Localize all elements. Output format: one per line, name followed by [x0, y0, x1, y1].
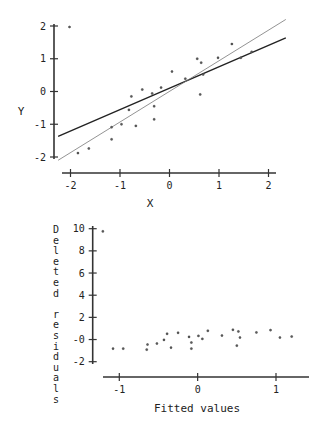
svg-text:e: e — [53, 277, 59, 288]
svg-text:a: a — [53, 372, 59, 383]
svg-text:l: l — [53, 383, 59, 394]
data-point — [278, 336, 281, 339]
y-tick-label: 1 — [40, 53, 46, 64]
data-point — [130, 95, 133, 98]
x-tick-label: 0 — [195, 384, 201, 395]
data-point — [145, 348, 148, 351]
svg-text:i: i — [53, 341, 59, 352]
svg-text:D: D — [53, 224, 59, 235]
data-point — [235, 344, 238, 347]
chart-canvas: -2-1012-2-1012 XY 108642-0-2-101 Fitted … — [0, 0, 327, 428]
fit-without-outlier-line — [58, 19, 286, 160]
y-tick-label: 6 — [79, 268, 85, 279]
x-tick-label: 1 — [216, 180, 222, 191]
data-point — [237, 330, 240, 333]
svg-text:s: s — [53, 394, 59, 405]
y-tick-label: -2 — [34, 152, 46, 163]
x-axis-label: Fitted values — [154, 402, 240, 415]
svg-text:e: e — [53, 256, 59, 267]
data-point — [134, 124, 137, 127]
regression-lines — [58, 19, 286, 160]
x-tick-label: -1 — [114, 180, 126, 191]
data-point — [201, 337, 204, 340]
data-point — [230, 43, 233, 46]
data-point — [155, 342, 158, 345]
y-axis-label: Y — [18, 105, 25, 118]
data-point — [231, 328, 234, 331]
x-tick-label: -1 — [113, 384, 125, 395]
svg-text:u: u — [53, 362, 59, 373]
data-point — [153, 105, 156, 108]
y-tick-label: -0 — [73, 334, 85, 345]
data-point — [255, 331, 258, 334]
data-point — [217, 56, 220, 59]
svg-text:d: d — [53, 288, 59, 299]
axes: 108642-0-2-101 — [73, 223, 309, 395]
data-point — [200, 61, 203, 64]
y-tick-label: 0 — [40, 86, 46, 97]
data-point — [110, 138, 113, 141]
data-point — [101, 230, 104, 233]
data-point — [76, 152, 79, 155]
y-tick-label: -1 — [34, 119, 46, 130]
data-point — [170, 70, 173, 73]
data-point — [68, 25, 71, 28]
svg-text:s: s — [53, 330, 59, 341]
data-point — [188, 335, 191, 338]
data-point — [190, 347, 193, 350]
y-tick-label: -2 — [73, 356, 85, 367]
y-axis-label: Deletedresiduals — [53, 224, 59, 405]
data-point — [184, 77, 187, 80]
data-point — [190, 341, 193, 344]
data-point — [146, 343, 149, 346]
y-tick-label: 8 — [79, 245, 85, 256]
data-points — [101, 230, 293, 351]
x-tick-label: -2 — [64, 180, 76, 191]
svg-text:l: l — [53, 245, 59, 256]
data-point — [87, 147, 90, 150]
svg-text:t: t — [53, 266, 59, 277]
data-points — [68, 25, 253, 154]
deleted-residuals-plot: 108642-0-2-101 Fitted valuesDeletedresid… — [53, 223, 309, 415]
data-point — [170, 346, 173, 349]
svg-text:e: e — [53, 235, 59, 246]
x-axis-label: X — [147, 197, 154, 210]
x-tick-label: 1 — [273, 384, 279, 395]
data-point — [199, 93, 202, 96]
x-tick-label: 0 — [166, 180, 172, 191]
svg-text:e: e — [53, 319, 59, 330]
scatter-plot-x-vs-y: -2-1012-2-1012 XY — [18, 19, 286, 210]
data-point — [127, 108, 130, 111]
data-point — [160, 86, 163, 89]
data-point — [162, 338, 165, 341]
data-point — [122, 347, 125, 350]
x-tick-label: 2 — [265, 180, 271, 191]
data-point — [120, 123, 123, 126]
data-point — [112, 347, 115, 350]
data-point — [166, 332, 169, 335]
data-point — [290, 335, 293, 338]
data-point — [238, 336, 241, 339]
data-point — [220, 334, 223, 337]
data-point — [197, 334, 200, 337]
data-point — [206, 329, 209, 332]
y-tick-label: 4 — [79, 290, 85, 301]
data-point — [141, 88, 144, 91]
svg-text:d: d — [53, 351, 59, 362]
y-tick-label: 2 — [79, 312, 85, 323]
y-tick-label: 2 — [40, 21, 46, 32]
data-point — [196, 57, 199, 60]
data-point — [153, 118, 156, 121]
y-tick-label: 10 — [73, 223, 85, 234]
data-point — [269, 329, 272, 332]
data-point — [177, 331, 180, 334]
svg-text:r: r — [53, 309, 59, 320]
